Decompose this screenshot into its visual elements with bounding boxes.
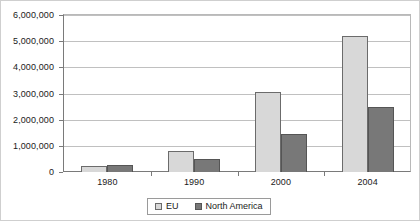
x-axis-tick <box>238 172 239 176</box>
x-axis-tick <box>151 172 152 176</box>
bar-north-america-2004[interactable] <box>368 107 394 172</box>
legend-swatch-icon <box>195 203 202 210</box>
legend-item-eu[interactable]: EU <box>155 202 179 211</box>
y-axis-tick <box>59 172 63 173</box>
bar-north-america-1990[interactable] <box>194 159 220 172</box>
bar-eu-1990[interactable] <box>168 151 194 172</box>
y-axis-label: 1,000,000 <box>13 141 54 150</box>
x-axis-label-1990: 1990 <box>184 177 204 188</box>
y-axis-label: 2,000,000 <box>13 115 54 124</box>
x-axis-label-2004: 2004 <box>358 177 378 188</box>
bar-group <box>324 15 411 172</box>
bar-group <box>238 15 325 172</box>
y-axis-label: 6,000,000 <box>13 11 54 20</box>
legend-label: North America <box>206 202 263 211</box>
bar-eu-2004[interactable] <box>342 36 368 172</box>
legend-item-north-america[interactable]: North America <box>195 202 263 211</box>
bar-chart: 01,000,0002,000,0003,000,0004,000,0005,0… <box>0 0 420 221</box>
bar-group <box>151 15 238 172</box>
y-axis-label: 0 <box>49 168 54 177</box>
legend-label: EU <box>166 202 179 211</box>
bars-layer <box>64 15 411 172</box>
bar-eu-2000[interactable] <box>255 92 281 172</box>
y-axis-label: 4,000,000 <box>13 63 54 72</box>
bar-group <box>64 15 151 172</box>
x-axis: 1980199020002004 <box>64 177 411 191</box>
x-axis-label-2000: 2000 <box>271 177 291 188</box>
bar-north-america-2000[interactable] <box>281 134 307 172</box>
chart-legend: EUNorth America <box>147 198 271 215</box>
y-axis-label: 5,000,000 <box>13 37 54 46</box>
x-axis-tick <box>324 172 325 176</box>
x-axis-label-1980: 1980 <box>97 177 117 188</box>
y-axis-label: 3,000,000 <box>13 89 54 98</box>
legend-swatch-icon <box>155 203 162 210</box>
y-axis: 01,000,0002,000,0003,000,0004,000,0005,0… <box>1 1 63 185</box>
